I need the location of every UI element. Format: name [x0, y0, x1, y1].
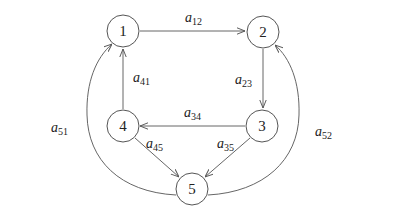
svg-text:5: 5: [188, 181, 196, 197]
graph-diagram: a12 a23 a34 a35 a41 a45 a51 a52 1 2 3 4 …: [0, 0, 394, 216]
node-1: 1: [107, 15, 139, 47]
node-3: 3: [246, 110, 278, 142]
graph-svg: a12 a23 a34 a35 a41 a45 a51 a52 1 2 3 4 …: [0, 0, 394, 216]
svg-text:3: 3: [258, 118, 266, 134]
svg-text:2: 2: [259, 24, 267, 40]
node-4: 4: [107, 110, 139, 142]
label-a35: a35: [217, 136, 234, 153]
node-5: 5: [176, 173, 208, 205]
node-2: 2: [247, 16, 279, 48]
label-a45: a45: [146, 136, 163, 153]
svg-text:1: 1: [119, 23, 127, 39]
label-a51: a51: [51, 120, 68, 137]
label-a52: a52: [315, 124, 332, 141]
svg-text:4: 4: [119, 118, 127, 134]
label-a12: a12: [185, 10, 202, 27]
label-a23: a23: [235, 72, 252, 89]
label-a41: a41: [133, 70, 150, 87]
label-a34: a34: [184, 105, 201, 122]
